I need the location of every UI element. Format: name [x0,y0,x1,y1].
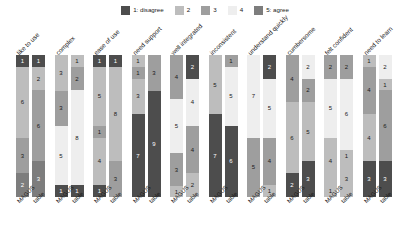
bar-segment[interactable]: 5 [263,79,276,138]
stacked-bar[interactable]: 2442 [186,55,199,197]
bar-segment[interactable]: 1 [109,55,122,67]
bar-segment[interactable]: 3 [170,153,183,186]
stacked-bar[interactable]: 2541 [324,55,337,197]
category-label: inconsistent [209,28,237,56]
legend-label: 2 [187,7,190,13]
bar-segment[interactable]: 1 [16,55,29,67]
bar-segment[interactable]: 1 [93,126,106,138]
bar-segment[interactable]: 1 [32,55,45,67]
legend-label: 4 [240,7,243,13]
bar-segment[interactable]: 3 [132,79,145,115]
chart-plot-area: like to use16321263MAGUStablecomplex3351… [0,22,410,230]
bar-segment[interactable]: 5 [170,99,183,154]
bar-segment[interactable]: 4 [186,79,199,126]
bar-segment[interactable]: 2 [71,67,84,91]
stacked-bar[interactable]: 1443 [363,55,376,197]
bar-segment[interactable]: 8 [71,90,84,185]
bar-segment[interactable]: 2 [263,55,276,79]
bar-segment[interactable]: 8 [109,67,122,162]
bar-pair: 14432163 [363,55,392,197]
bar-segment[interactable]: 5 [302,102,315,161]
stacked-bar[interactable]: 2253 [302,55,315,197]
bar-segment[interactable]: 2 [32,67,45,91]
stacked-bar[interactable]: 1137 [132,55,145,197]
bar-segment[interactable]: 5 [209,55,222,114]
bar-segment[interactable]: 5 [93,67,106,126]
category-label: need support [132,26,163,57]
stacked-bar[interactable]: 156 [225,55,238,197]
bar-segment[interactable]: 1 [379,79,392,91]
bar-segment[interactable]: 1 [340,150,353,162]
legend-item[interactable]: 4 [228,6,243,15]
bar-segment[interactable]: 2 [379,55,392,79]
bar-segment[interactable]: 4 [263,138,276,185]
stacked-bar[interactable]: 57 [209,55,222,197]
stacked-bar[interactable]: 1281 [71,55,84,197]
bar-segment[interactable]: 5 [324,79,337,138]
bar-segment[interactable]: 1 [363,55,376,67]
stacked-bar[interactable]: 462 [286,55,299,197]
bar-segment[interactable]: 3 [148,55,161,91]
stacked-bar[interactable]: 2613 [340,55,353,197]
bar-segment[interactable]: 6 [16,67,29,138]
bar-segment[interactable]: 1 [132,55,145,67]
bar-segment[interactable]: 7 [247,55,260,138]
bar-segment[interactable]: 7 [132,114,145,197]
legend-item[interactable]: 2 [175,6,190,15]
stacked-bar[interactable]: 1263 [32,55,45,197]
stacked-bar[interactable]: 39 [148,55,161,197]
bar-segment[interactable]: 6 [32,90,45,161]
bar-segment[interactable]: 1 [71,55,84,67]
bar-segment[interactable]: 6 [379,90,392,161]
bar-segment[interactable]: 2 [324,55,337,79]
bar-segment[interactable]: 3 [55,91,68,127]
stacked-bar[interactable]: 15141 [93,55,106,197]
legend-swatch-icon [201,6,210,15]
bar-segment[interactable]: 1 [132,67,145,79]
bar-segment[interactable]: 4 [324,138,337,185]
stacked-bar[interactable]: 2163 [379,55,392,197]
bar-segment[interactable]: 2 [302,55,315,79]
legend-label: 3 [213,7,216,13]
bar-segment[interactable]: 2 [186,55,199,79]
stacked-bar[interactable]: 1632 [16,55,29,197]
bar-pair: 4622253 [286,55,315,197]
bar-segment[interactable]: 2 [340,55,353,79]
bar-pair: 45312442 [170,55,199,197]
stacked-bar[interactable]: 75 [247,55,260,197]
bar-segment[interactable]: 6 [286,102,299,173]
bar-segment[interactable]: 4 [186,126,199,173]
bar-pair: 25412613 [324,55,353,197]
bar-segment[interactable]: 3 [55,55,68,91]
stacked-bar[interactable]: 183 [109,55,122,197]
bar-segment[interactable]: 4 [286,55,299,102]
bar-segment[interactable]: 2 [302,79,315,103]
stacked-bar[interactable]: 2541 [263,55,276,197]
legend-label: 5: agree [266,7,289,13]
stacked-bar[interactable]: 4531 [170,55,183,197]
category-label: need to learn [363,26,394,57]
bar-segment[interactable]: 4 [363,114,376,161]
bar-segment[interactable]: 4 [170,55,183,99]
bar-segment[interactable]: 5 [225,67,238,126]
bar-segment[interactable]: 4 [363,67,376,114]
legend-swatch-icon [175,6,184,15]
legend-swatch-icon [121,6,130,15]
bar-segment[interactable]: 9 [148,91,161,198]
bar-segment[interactable]: 6 [340,79,353,150]
bar-segment[interactable]: 3 [16,138,29,174]
bar-segment[interactable]: 4 [93,138,106,185]
category-label: complex [55,35,76,56]
bar-segment[interactable]: 1 [93,55,106,67]
bar-pair: 752541 [247,55,276,197]
bar-pair: 113739 [132,55,161,197]
legend-item[interactable]: 1: disagree [121,6,164,15]
bar-pair: 16321263 [16,55,45,197]
bar-segment[interactable]: 5 [55,126,68,185]
legend-item[interactable]: 3 [201,6,216,15]
category-label: felt confident [324,26,354,56]
bar-segment[interactable]: 1 [225,55,238,67]
bar-segment[interactable]: 7 [209,114,222,197]
stacked-bar[interactable]: 3351 [55,55,68,197]
legend-swatch-icon [228,6,237,15]
